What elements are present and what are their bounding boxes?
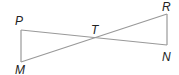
label-m: M	[15, 63, 25, 75]
label-n: N	[162, 50, 171, 64]
segment-mr	[21, 14, 167, 62]
label-r: R	[162, 0, 171, 14]
label-t: T	[91, 23, 100, 37]
label-p: P	[15, 14, 23, 28]
figure: P M T R N	[0, 0, 179, 75]
